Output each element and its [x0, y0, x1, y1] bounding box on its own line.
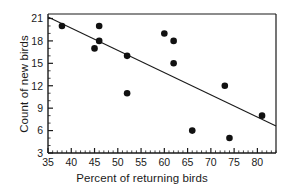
data-point	[96, 23, 103, 30]
x-tick-label: 70	[205, 156, 217, 168]
data-point	[170, 38, 177, 45]
x-tick-label: 60	[158, 156, 170, 168]
x-tick-label: 75	[228, 156, 240, 168]
x-axis-major-ticks	[48, 148, 257, 153]
x-tick-label: 65	[182, 156, 194, 168]
data-point	[170, 60, 177, 67]
y-tick-label: 6	[37, 124, 43, 136]
data-point	[161, 30, 168, 37]
x-tick-label: 40	[65, 156, 77, 168]
y-axis-title: Count of new birds	[18, 35, 30, 133]
y-axis-major-ticks	[48, 18, 53, 153]
y-tick-label: 9	[37, 102, 43, 114]
data-point	[259, 112, 266, 119]
y-tick-label: 18	[31, 35, 43, 47]
data-point	[96, 38, 103, 45]
data-point	[91, 45, 98, 52]
plot-canvas: 35404550556065707580 36912151821	[0, 0, 284, 193]
x-tick-label: 50	[112, 156, 124, 168]
data-point	[124, 90, 131, 97]
data-point	[189, 127, 196, 134]
x-tick-label: 35	[42, 156, 54, 168]
y-tick-label: 12	[31, 80, 43, 92]
x-tick-label: 45	[89, 156, 101, 168]
x-axis-tick-labels: 35404550556065707580	[42, 156, 263, 168]
y-tick-label: 21	[31, 12, 43, 24]
y-axis-tick-labels: 36912151821	[31, 12, 43, 159]
x-axis-title-wrapper: Percent of returning birds	[0, 172, 284, 184]
y-tick-label: 3	[37, 147, 43, 159]
data-point	[59, 23, 66, 30]
x-tick-label: 80	[252, 156, 264, 168]
y-axis-title-wrapper: Count of new birds	[18, 4, 30, 164]
data-points	[59, 23, 266, 142]
x-axis-title: Percent of returning birds	[76, 172, 208, 184]
x-tick-label: 55	[135, 156, 147, 168]
data-point	[124, 53, 131, 60]
data-point	[222, 82, 229, 89]
scatter-plot-figure: 35404550556065707580 36912151821 Percent…	[0, 0, 284, 193]
data-point	[226, 135, 233, 142]
y-tick-label: 15	[31, 57, 43, 69]
